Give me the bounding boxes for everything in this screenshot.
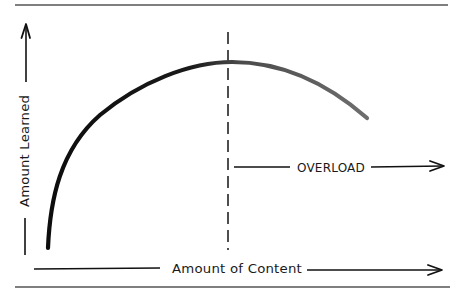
x-axis: Amount of Content	[34, 261, 442, 276]
x-axis-label: Amount of Content	[172, 261, 302, 276]
y-axis: Amount Learned	[17, 24, 32, 255]
overload-annotation: OVERLOAD	[234, 160, 444, 175]
learning-curve-chart: Amount Learned Amount of Content OVERLOA…	[0, 0, 460, 291]
overload-line-right	[371, 166, 443, 167]
learning-curve	[48, 62, 367, 248]
overload-label: OVERLOAD	[297, 160, 365, 175]
x-axis-line-left	[34, 268, 160, 269]
y-axis-label: Amount Learned	[17, 95, 32, 207]
